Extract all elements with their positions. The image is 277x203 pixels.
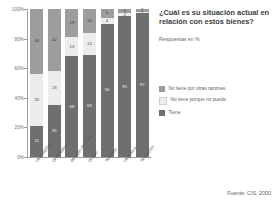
legend-swatch-other xyxy=(159,86,165,92)
y-axis-tick-mark xyxy=(24,39,28,40)
bar-segment[interactable]: 6 xyxy=(101,9,114,18)
legend-label: Tiene. xyxy=(169,110,182,116)
bar-value-label: 42 xyxy=(52,38,57,42)
bar-segment[interactable]: 95 xyxy=(118,16,131,157)
bar-value-label: 90 xyxy=(105,88,110,92)
x-axis-tick-mark xyxy=(125,157,126,160)
bar-value-label: 19 xyxy=(70,21,75,25)
bar-segment[interactable]: 42 xyxy=(48,9,61,71)
chart-subtitle: Respuestas en % xyxy=(159,36,275,42)
source-note: Fuente: CIS, 2000 xyxy=(227,190,271,196)
bar-value-label: 15 xyxy=(87,42,92,46)
bar-column[interactable]: 3295 xyxy=(118,9,131,157)
bar-value-label: 13 xyxy=(70,45,75,49)
bar-segment[interactable]: 44 xyxy=(30,9,43,74)
bar-value-label: 44 xyxy=(34,39,39,43)
y-axis-tick-mark xyxy=(24,98,28,99)
bar-column[interactable]: 443521 xyxy=(30,9,43,157)
y-axis-tick-mark xyxy=(24,127,28,128)
bar-value-label: 68 xyxy=(70,105,75,109)
x-axis-tick-mark xyxy=(142,157,143,160)
y-axis-tick-label: 60% xyxy=(15,66,25,71)
y-axis: 100%80%60%40%20%0% xyxy=(0,9,28,157)
legend-label: No tiene porque no puede. xyxy=(171,97,228,103)
legend-item[interactable]: Tiene. xyxy=(159,110,275,116)
x-axis-labels: LavavajillasOrdenadorAparato de vídeoCoc… xyxy=(28,160,152,203)
x-axis-tick-mark xyxy=(54,157,55,160)
x-axis-tick-mark xyxy=(107,157,108,160)
bar-value-label: 21 xyxy=(34,139,39,143)
bar-value-label: 6 xyxy=(106,11,108,15)
bar-segment[interactable]: 97 xyxy=(136,13,149,157)
bar-segment[interactable]: 16 xyxy=(83,9,96,33)
legend-item[interactable]: No tiene por otras razones. xyxy=(159,86,275,92)
legend-label: No tiene por otras razones. xyxy=(169,86,227,92)
bar-value-label: 95 xyxy=(122,85,127,89)
bar-value-label: 97 xyxy=(140,83,145,87)
x-axis-tick-mark xyxy=(72,157,73,160)
legend-swatch-cannot xyxy=(159,97,167,105)
bar-segment[interactable]: 68 xyxy=(65,56,78,157)
bar-segment[interactable]: 13 xyxy=(65,37,78,56)
y-axis-tick-label: 80% xyxy=(15,36,25,41)
bar-value-label: 35 xyxy=(52,129,57,133)
bar-segment[interactable]: 23 xyxy=(48,71,61,105)
x-axis-tick-mark xyxy=(90,157,91,160)
legend: No tiene por otras razones.No tiene porq… xyxy=(159,86,275,121)
chart-page: 100%80%60%40%20%0% 443521422335191368161… xyxy=(0,0,277,203)
bar-column[interactable]: 422335 xyxy=(48,9,61,157)
bar-value-label: 35 xyxy=(34,98,39,102)
bar-segment[interactable]: 35 xyxy=(30,74,43,126)
bar-segment[interactable]: 15 xyxy=(83,33,96,55)
bar-column[interactable]: 2197 xyxy=(136,9,149,157)
y-axis-tick-mark xyxy=(24,68,28,69)
bar-segment[interactable]: 19 xyxy=(65,9,78,37)
legend-swatch-has xyxy=(159,110,165,116)
y-axis-tick-label: 20% xyxy=(15,125,25,130)
y-axis-tick-mark xyxy=(24,157,28,158)
bar-column[interactable]: 6490 xyxy=(101,9,114,157)
bar-value-label: 23 xyxy=(52,86,57,90)
x-axis-tick-mark xyxy=(37,157,38,160)
y-axis-tick-label: 40% xyxy=(15,95,25,100)
bar-column[interactable]: 191368 xyxy=(65,9,78,157)
y-axis-tick-mark xyxy=(24,9,28,10)
chart-title: ¿Cuál es su situación actual en relación… xyxy=(159,8,275,26)
y-axis-tick-label: 100% xyxy=(12,7,24,12)
bar-value-label: 16 xyxy=(87,19,92,23)
bar-segment[interactable]: 90 xyxy=(101,24,114,157)
legend-item[interactable]: No tiene porque no puede. xyxy=(159,97,275,105)
bar-value-label: 69 xyxy=(87,104,92,108)
y-axis-tick-label: 0% xyxy=(17,155,24,160)
plot-area: 100%80%60%40%20%0% 443521422335191368161… xyxy=(0,0,152,168)
bar-value-label: 4 xyxy=(106,19,108,23)
